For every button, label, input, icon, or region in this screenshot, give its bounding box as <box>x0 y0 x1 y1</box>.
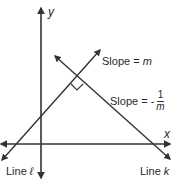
right-angle-marker <box>71 84 83 90</box>
y-axis-label: y <box>48 6 54 18</box>
slope-m-label: Slope = m <box>102 56 152 67</box>
slope-m-value: m <box>143 55 152 67</box>
slope-m-prefix: Slope = <box>102 55 143 67</box>
slope-neg-reciprocal-label: Slope = - 1 m <box>110 90 165 112</box>
line-l-var: ℓ <box>30 165 34 177</box>
line-k-prefix: Line <box>140 165 164 177</box>
x-axis-label: x <box>164 128 170 140</box>
slope-k-prefix: Slope = - <box>110 96 154 107</box>
fraction-numerator: 1 <box>157 90 165 102</box>
line-l-label: Line ℓ <box>6 166 33 177</box>
fraction: 1 m <box>156 90 164 112</box>
line-l-prefix: Line <box>6 165 30 177</box>
fraction-denominator: m <box>156 102 164 113</box>
line-k-var: k <box>164 165 170 177</box>
line-k-label: Line k <box>140 166 169 177</box>
